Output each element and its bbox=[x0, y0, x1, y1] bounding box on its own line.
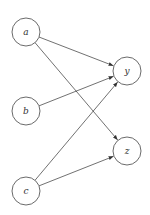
node-a: a bbox=[12, 18, 40, 46]
edge-b-y bbox=[39, 76, 114, 106]
dag-diagram: abcyz bbox=[0, 0, 150, 215]
node-label: c bbox=[23, 186, 28, 196]
node-label: a bbox=[23, 27, 28, 37]
node-b: b bbox=[12, 97, 40, 125]
node-z: z bbox=[113, 137, 141, 165]
edge-c-z bbox=[39, 156, 114, 186]
node-label: b bbox=[23, 106, 29, 116]
edge-a-y bbox=[39, 37, 113, 66]
node-y: y bbox=[113, 57, 141, 85]
edge-c-y bbox=[35, 82, 118, 180]
node-label: y bbox=[123, 66, 130, 76]
nodes: abcyz bbox=[12, 18, 141, 205]
edges bbox=[35, 37, 118, 186]
node-label: z bbox=[124, 146, 130, 156]
node-c: c bbox=[12, 177, 40, 205]
